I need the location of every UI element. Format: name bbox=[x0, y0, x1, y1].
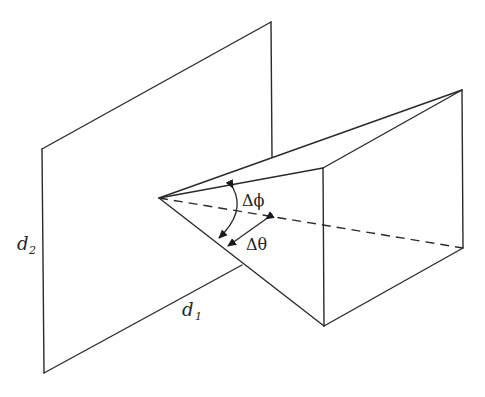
plane-bottom-edge bbox=[44, 265, 242, 373]
svg-text:d: d bbox=[17, 233, 29, 254]
delta-phi-label: Δϕ bbox=[242, 191, 265, 210]
d2-label: d 2 bbox=[17, 233, 36, 257]
plane-left-edge bbox=[42, 149, 44, 373]
beam-axis-dashed bbox=[159, 198, 463, 248]
delta-theta-label: Δθ bbox=[246, 235, 267, 254]
svg-text:d: d bbox=[182, 299, 194, 320]
beam-diagram: Δϕ Δθ d 2 d 1 bbox=[0, 0, 485, 397]
d1-label: d 1 bbox=[182, 299, 202, 323]
pyramid-upper-edge bbox=[159, 90, 462, 198]
svg-text:1: 1 bbox=[195, 310, 202, 323]
svg-text:2: 2 bbox=[28, 244, 36, 257]
pyramid-front-vertical-edge bbox=[323, 168, 324, 326]
plane-top-edge bbox=[42, 22, 271, 149]
pyramid-top-face-edge bbox=[323, 90, 462, 168]
pyramid-right-vertical-edge bbox=[462, 90, 463, 248]
projection-plane bbox=[42, 22, 272, 373]
plane-right-edge bbox=[271, 22, 272, 157]
pyramid-base-edge bbox=[324, 248, 463, 326]
delta-phi-arc bbox=[219, 188, 237, 238]
pyramid-beam bbox=[159, 90, 463, 326]
pyramid-front-top-edge bbox=[159, 168, 323, 198]
